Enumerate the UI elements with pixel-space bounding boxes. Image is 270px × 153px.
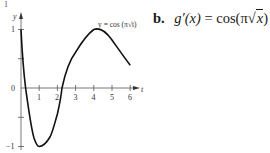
y-tick-label: 1 [11, 25, 15, 34]
sqrt-icon: √x [248, 10, 263, 27]
y-axis-arrow-icon [19, 12, 23, 19]
x-tick-label: 4 [92, 93, 96, 102]
x-axis-arrow-icon [133, 86, 140, 90]
x-tick-label: 6 [128, 93, 132, 102]
function-lhs: g′(x) [174, 10, 201, 26]
x-axis-label: t [141, 85, 144, 94]
x-tick-label: 5 [110, 93, 114, 102]
equals-sign: = [204, 10, 212, 26]
x-tick-label: 3 [74, 93, 78, 102]
curve-label: y = cos (π√t) [98, 20, 137, 29]
x-tick-label: 1 [37, 93, 41, 102]
radicand: x [256, 9, 263, 26]
y-axis-label: y [12, 12, 17, 21]
cosine-graph: 1 2 3 4 5 6 1 0 −1 y t y = cos (π√t) [0, 0, 150, 153]
function-rhs-prefix: cos(π [216, 10, 247, 26]
y-tick-label: 0 [11, 84, 15, 93]
x-tick-label: 2 [55, 93, 59, 102]
y-tick-label: −1 [6, 142, 15, 151]
part-label: b. [153, 10, 165, 26]
exercise-part-b: b. g′(x) = cos(π√x) [153, 10, 268, 27]
function-rhs-suffix: ) [263, 10, 268, 26]
